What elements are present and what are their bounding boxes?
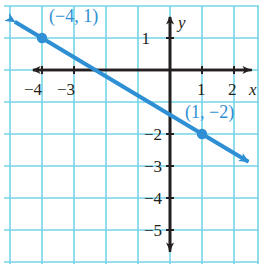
x-tick-label-pos2: 2 — [228, 80, 237, 99]
x-tick-label-neg3: −3 — [57, 80, 75, 99]
x-tick-label-pos1: 1 — [197, 80, 206, 99]
point-a-label: (−4, 1) — [49, 6, 98, 27]
y-tick-label-neg5: −5 — [144, 221, 162, 240]
y-tick-label-pos1: 1 — [142, 29, 151, 48]
y-tick-label-neg2: −2 — [144, 125, 162, 144]
plotted-line — [15, 22, 249, 162]
y-axis-label: y — [176, 13, 186, 32]
x-axis-label: x — [248, 80, 257, 99]
coordinate-plane-graph: −4 −3 1 2 x 1 −2 −3 −4 −5 y (−4, 1) (1, … — [0, 0, 263, 270]
y-tick-label-neg3: −3 — [144, 157, 162, 176]
grid-lines — [4, 6, 259, 264]
graph-canvas: −4 −3 1 2 x 1 −2 −3 −4 −5 y (−4, 1) (1, … — [0, 0, 263, 270]
y-tick-label-neg4: −4 — [144, 189, 163, 208]
x-tick-label-neg4: −4 — [24, 80, 43, 99]
data-point-b — [197, 129, 207, 139]
data-point-a — [37, 33, 47, 43]
point-b-label: (1, −2) — [185, 102, 234, 123]
